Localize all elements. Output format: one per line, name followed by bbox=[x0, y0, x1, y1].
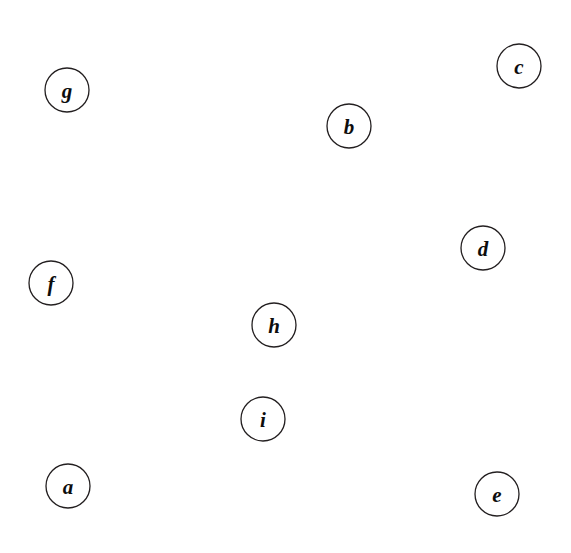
edge-g-f-core bbox=[47, 112, 62, 261]
edge-b-c-core bbox=[370, 66, 498, 118]
edge-a-e-core bbox=[90, 490, 478, 537]
graph-figure: abcdefghi bbox=[0, 0, 571, 553]
vertex-a-label: a bbox=[63, 475, 74, 499]
vertex-g[interactable]: g bbox=[45, 68, 89, 112]
vertex-d-label: d bbox=[478, 237, 489, 261]
vertex-i[interactable]: i bbox=[241, 397, 285, 441]
vertex-c-label: c bbox=[514, 55, 524, 79]
edge-h-i-core bbox=[265, 347, 272, 397]
vertex-e-label: e bbox=[492, 483, 501, 507]
edge-h-e bbox=[296, 330, 482, 480]
vertex-d[interactable]: d bbox=[461, 226, 505, 270]
edge-d-e-core bbox=[486, 270, 496, 472]
edge-c-e-core bbox=[512, 86, 542, 478]
graph-canvas: abcdefghi bbox=[0, 0, 571, 553]
vertex-h[interactable]: h bbox=[252, 303, 296, 347]
vertex-e[interactable]: e bbox=[475, 472, 519, 516]
edge-cores-layer bbox=[47, 24, 542, 536]
vertex-a[interactable]: a bbox=[46, 464, 90, 508]
vertex-g-label: g bbox=[61, 79, 73, 103]
edge-f-h-core bbox=[72, 264, 270, 303]
edge-h-e-core bbox=[296, 330, 482, 480]
vertex-b[interactable]: b bbox=[327, 104, 371, 148]
vertex-i-label: i bbox=[260, 408, 266, 432]
edge-g-c-core bbox=[84, 24, 505, 78]
vertex-c[interactable]: c bbox=[497, 44, 541, 88]
vertex-h-label: h bbox=[268, 314, 280, 338]
vertex-b-label: b bbox=[344, 115, 355, 139]
vertex-f[interactable]: f bbox=[29, 261, 73, 305]
